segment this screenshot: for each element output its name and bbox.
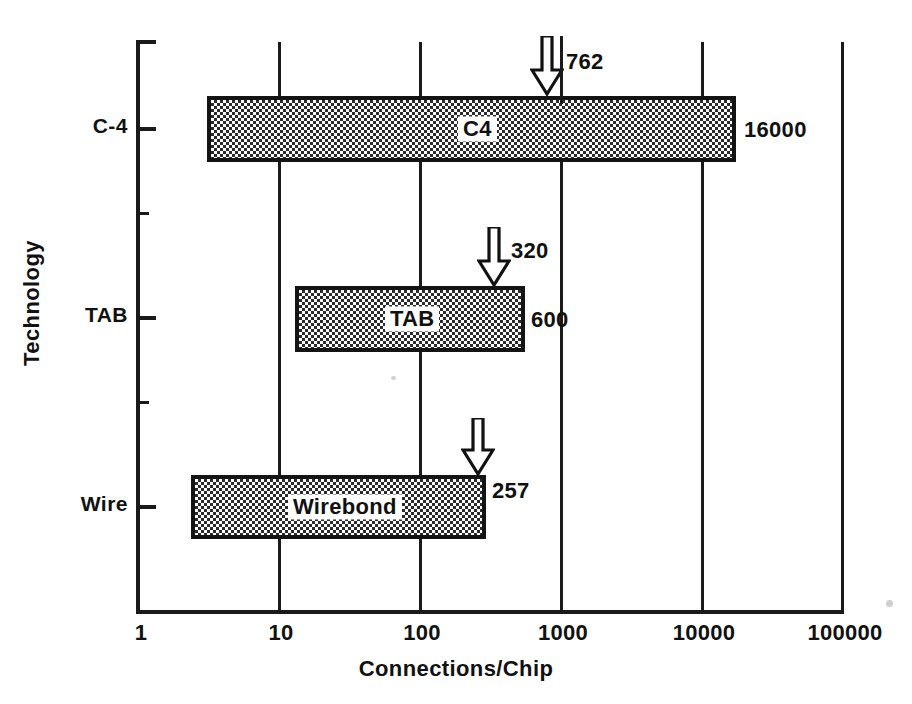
bar-tab: TAB	[295, 286, 525, 352]
y-tick-label-wire: Wire	[81, 492, 128, 516]
gridline-100000	[841, 42, 844, 612]
x-tick-label-100000: 100000	[807, 620, 882, 646]
bar-label-c4: C4	[458, 116, 497, 141]
average-tickline-c4	[560, 36, 563, 104]
average-arrow-tab	[477, 227, 511, 289]
y-tick-label-wire-wrap: Wire	[0, 492, 128, 518]
chart-figure: C-4 TAB Wire 1 10 100 1000 10000 100000 …	[0, 0, 912, 704]
y-tick-minor-2	[136, 401, 149, 404]
x-tick-label-10000: 10000	[673, 620, 736, 646]
y-tick-label-c4: C-4	[93, 114, 128, 138]
y-tick-label-c4-wrap: C-4	[0, 114, 128, 140]
x-tick-10000	[701, 590, 704, 614]
x-tick-label-100: 100	[403, 620, 441, 646]
y-tick-top	[136, 40, 156, 44]
x-tick-label-1: 1	[135, 620, 148, 646]
y-tick-tab	[136, 316, 156, 320]
bar-label-wirebond: Wirebond	[288, 494, 402, 519]
bar-wirebond: Wirebond	[191, 475, 486, 539]
scan-speck	[886, 600, 893, 607]
y-tick-c4	[136, 127, 156, 131]
bar-label-tab: TAB	[385, 306, 439, 331]
bar-c4: C4	[207, 96, 736, 162]
x-tick-label-1000: 1000	[538, 620, 588, 646]
y-axis-title: Technology	[19, 183, 45, 423]
x-tick-label-10: 10	[268, 620, 293, 646]
average-arrow-wirebond	[461, 418, 495, 478]
average-value-c4: 762	[566, 49, 604, 75]
average-value-tab: 320	[511, 238, 549, 264]
average-arrow-c4	[530, 36, 564, 98]
y-tick-minor-1	[136, 212, 149, 215]
bar-max-value-tab: 600	[531, 307, 569, 333]
bar-max-value-c4: 16000	[744, 117, 807, 143]
scan-speck	[391, 376, 396, 380]
x-tick-10	[278, 590, 281, 614]
y-tick-wire	[136, 505, 156, 509]
x-tick-1000	[560, 590, 563, 614]
x-axis-title: Connections/Chip	[0, 656, 912, 682]
bar-max-value-wirebond: 257	[492, 478, 530, 504]
x-tick-100	[419, 590, 422, 614]
y-tick-label-tab: TAB	[85, 303, 128, 327]
x-axis-line	[136, 610, 844, 614]
